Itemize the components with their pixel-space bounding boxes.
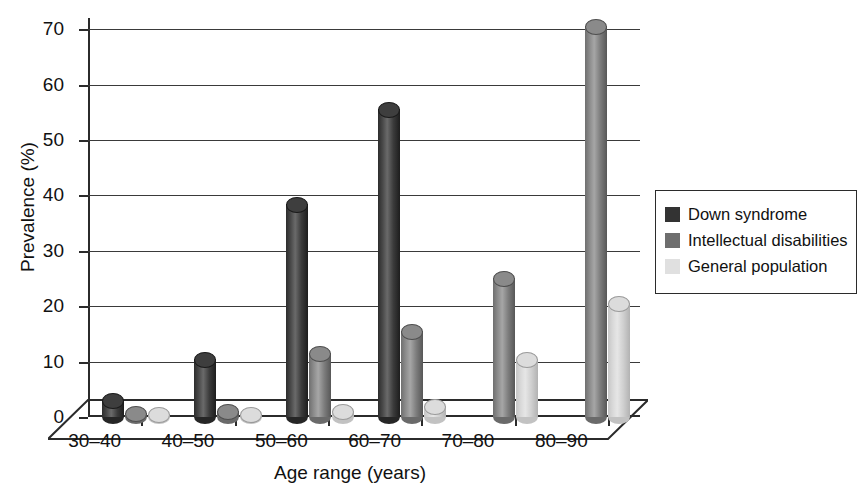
x-tick-label: 80–90 [506,430,616,452]
y-tick-mark [79,195,88,197]
legend-item-intellectual-disabilities: Intellectual disabilities [665,231,848,250]
bar-body [608,303,630,417]
legend-item-label: Down syndrome [688,205,807,224]
bar [608,296,630,417]
bar [125,406,147,417]
legend-item-down-syndrome: Down syndrome [665,205,848,224]
bar-body [585,26,607,417]
prevalence-bar-chart: 010203040506070 30–4040–5050–6060–7070–8… [0,0,867,492]
chart-legend: Down syndrome Intellectual disabilities … [655,190,857,294]
bar [240,407,262,417]
y-tick-mark [79,306,88,308]
bar [217,404,239,417]
legend-item-label: Intellectual disabilities [688,231,848,250]
legend-item-general-population: General population [665,257,848,276]
bar [401,324,423,417]
y-tick-label: 20 [26,296,64,315]
bar [585,19,607,417]
bar-top-ellipse [516,352,538,368]
y-tick-mark [79,251,88,253]
y-tick-mark [79,29,88,31]
bar [493,271,515,417]
x-axis-title: Age range (years) [0,462,700,484]
legend-swatch-icon [665,233,680,248]
legend-swatch-icon [665,207,680,222]
y-tick-label: 0 [26,407,64,426]
bar [148,407,170,417]
bar [516,352,538,417]
bar [309,346,331,417]
y-axis-title: Prevalence (%) [17,117,39,297]
y-tick-mark [79,85,88,87]
y-tick-label: 10 [26,352,64,371]
bar-body [378,109,400,417]
bar [194,352,216,417]
legend-item-label: General population [688,257,827,276]
y-tick-label: 70 [26,19,64,38]
y-tick-mark [79,362,88,364]
bar [424,399,446,417]
bar [332,404,354,417]
bar-body [309,353,331,417]
y-tick-mark [79,417,88,419]
legend-swatch-icon [665,259,680,274]
y-tick-label: 60 [26,75,64,94]
bars-layer [88,18,640,417]
bar-body [286,204,308,417]
bar-top-ellipse [194,352,216,368]
bar [378,102,400,417]
y-tick-mark [79,140,88,142]
bar-top-ellipse [125,406,147,422]
bar-body [493,278,515,417]
bar-top-ellipse [286,197,308,213]
bar-top-ellipse [240,407,262,423]
bar-top-ellipse [424,399,446,415]
bar-top-ellipse [401,324,423,340]
bar [102,393,124,417]
bar-body [401,331,423,417]
bar [286,197,308,417]
